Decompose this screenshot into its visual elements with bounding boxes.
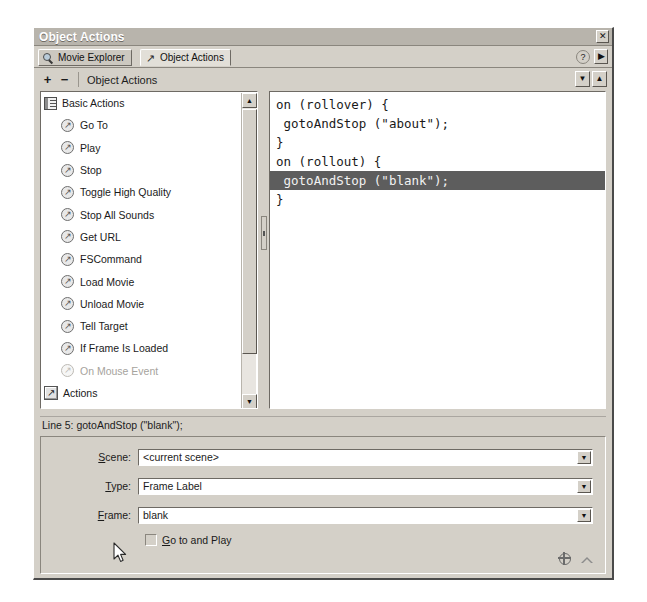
magnifier-icon xyxy=(42,52,55,64)
action-circle-icon: ↗ xyxy=(61,186,74,199)
close-icon[interactable]: ✕ xyxy=(596,30,609,43)
code-line[interactable]: on (rollover) { xyxy=(270,95,605,114)
action-arrow-icon: ↗ xyxy=(144,52,157,64)
code-line[interactable]: } xyxy=(270,190,605,209)
action-circle-icon: ↗ xyxy=(61,320,74,333)
action-circle-icon: ↗ xyxy=(61,253,74,266)
action-circle-icon: ↗ xyxy=(61,364,74,377)
scene-combobox[interactable]: <current scene>▼ xyxy=(138,449,593,466)
scene-label: Scene: xyxy=(41,451,138,463)
tab-movie-explorer[interactable]: Movie Explorer xyxy=(38,49,132,66)
code-line-selected[interactable]: gotoAndStop ("blank"); xyxy=(270,171,605,190)
tree-item-basic-actions[interactable]: Basic Actions xyxy=(41,92,257,114)
action-square-icon: ↗ xyxy=(44,386,58,400)
scroll-up-icon[interactable]: ▲ xyxy=(242,93,257,108)
book-icon xyxy=(44,97,57,110)
action-circle-icon: ↗ xyxy=(61,164,74,177)
window-title: Object Actions xyxy=(34,30,125,44)
action-circle-icon: ↗ xyxy=(61,342,74,355)
actions-toolbox-list: Basic Actions↗Go To↗Play↗Stop↗Toggle Hig… xyxy=(41,92,257,409)
tree-item-label: Tell Target xyxy=(74,320,128,332)
move-up-icon[interactable]: ▲ xyxy=(592,71,607,87)
window-titlebar[interactable]: Object Actions ✕ xyxy=(34,28,612,46)
code-line[interactable]: gotoAndStop ("about"); xyxy=(270,114,605,133)
goto-and-play-text: o to and Play xyxy=(170,534,231,546)
actionscript-lines: on (rollover) { gotoAndStop ("about");}o… xyxy=(270,95,605,209)
type-label: Type: xyxy=(41,480,138,492)
tree-item-operators[interactable]: ↗Operators xyxy=(41,404,257,409)
actionscript-editor[interactable]: on (rollover) { gotoAndStop ("about");}o… xyxy=(269,91,606,409)
tree-item-if-frame-is-loaded[interactable]: ↗If Frame Is Loaded xyxy=(41,337,257,359)
tree-item-label: Go To xyxy=(74,119,108,131)
remove-action-button[interactable]: − xyxy=(56,71,73,88)
action-square-icon: ↗ xyxy=(44,408,58,409)
add-action-button[interactable]: + xyxy=(39,71,56,88)
tree-item-play[interactable]: ↗Play xyxy=(41,137,257,159)
goto-and-play-label: Go to and Play xyxy=(157,534,231,546)
action-circle-icon: ↗ xyxy=(61,119,74,132)
tab-movie-explorer-label: Movie Explorer xyxy=(58,52,125,63)
tree-item-label: Toggle High Quality xyxy=(74,186,171,198)
goto-and-play-mnemonic: G xyxy=(162,534,170,546)
tree-item-label: Get URL xyxy=(74,231,121,243)
tree-item-unload-movie[interactable]: ↗Unload Movie xyxy=(41,293,257,315)
tree-item-load-movie[interactable]: ↗Load Movie xyxy=(41,270,257,292)
tree-item-tell-target[interactable]: ↗Tell Target xyxy=(41,315,257,337)
action-circle-icon: ↗ xyxy=(61,141,74,154)
scene-field-row: Scene:<current scene>▼ xyxy=(41,449,605,465)
action-circle-icon: ↗ xyxy=(61,275,74,288)
tree-item-stop-all-sounds[interactable]: ↗Stop All Sounds xyxy=(41,203,257,225)
action-circle-icon: ↗ xyxy=(61,208,74,221)
type-value: Frame Label xyxy=(139,480,202,492)
tree-item-stop[interactable]: ↗Stop xyxy=(41,159,257,181)
frame-label: Frame: xyxy=(41,509,138,521)
object-actions-window: Object Actions ✕ Movie Explorer ↗ Object… xyxy=(33,27,614,580)
type-field-row: Type:Frame Label▼ xyxy=(41,478,605,494)
tree-item-get-url[interactable]: ↗Get URL xyxy=(41,226,257,248)
actions-toolbar: + − Object Actions ▼ ▲ xyxy=(34,68,612,91)
tree-item-label: Actions xyxy=(58,387,97,399)
chevron-down-icon[interactable]: ▼ xyxy=(577,480,591,493)
code-line[interactable]: } xyxy=(270,133,605,152)
move-down-icon[interactable]: ▼ xyxy=(575,71,590,87)
actions-workarea: Basic Actions↗Go To↗Play↗Stop↗Toggle Hig… xyxy=(40,91,606,411)
chevron-down-icon[interactable]: ▼ xyxy=(577,451,591,464)
tree-item-label: Play xyxy=(74,142,100,154)
type-label-text: ype: xyxy=(111,480,131,492)
panel-splitter-handle[interactable] xyxy=(261,216,267,250)
tab-object-actions[interactable]: ↗ Object Actions xyxy=(140,49,231,66)
tree-item-go-to[interactable]: ↗Go To xyxy=(41,114,257,136)
toolbox-scrollbar[interactable]: ▲ ▼ xyxy=(241,93,256,409)
frame-label-text: rame: xyxy=(104,509,131,521)
tab-object-actions-label: Object Actions xyxy=(160,52,224,63)
tree-item-label: Stop All Sounds xyxy=(74,209,154,221)
tree-item-label: FSCommand xyxy=(74,253,142,265)
tree-item-label: Stop xyxy=(74,164,102,176)
parameter-fields: Scene:<current scene>▼Type:Frame Label▼F… xyxy=(41,449,605,523)
panel-tabstrip: Movie Explorer ↗ Object Actions ? ▶ xyxy=(34,46,612,68)
tree-item-toggle-high-quality[interactable]: ↗Toggle High Quality xyxy=(41,181,257,203)
scroll-down-icon[interactable]: ▼ xyxy=(242,394,257,409)
frame-combobox[interactable]: blank▼ xyxy=(138,507,593,524)
help-icon[interactable]: ? xyxy=(576,50,590,64)
status-line: Line 5: gotoAndStop ("blank"); xyxy=(40,416,606,433)
tree-item-label: On Mouse Event xyxy=(74,365,158,377)
tree-item-fscommand[interactable]: ↗FSCommand xyxy=(41,248,257,270)
goto-and-play-row[interactable]: Go to and Play xyxy=(41,534,605,546)
tree-item-label: If Frame Is Loaded xyxy=(74,342,168,354)
goto-and-play-checkbox[interactable] xyxy=(145,534,157,546)
actions-toolbox-tree[interactable]: Basic Actions↗Go To↗Play↗Stop↗Toggle Hig… xyxy=(40,91,258,409)
target-path-icon[interactable] xyxy=(559,553,571,565)
tree-item-on-mouse-event[interactable]: ↗On Mouse Event xyxy=(41,360,257,382)
chevron-down-icon[interactable]: ▼ xyxy=(577,509,591,522)
scrollbar-thumb[interactable] xyxy=(242,109,257,354)
expand-collapse-icon[interactable] xyxy=(581,557,593,564)
type-combobox[interactable]: Frame Label▼ xyxy=(138,478,593,495)
panel-menu-arrow-icon[interactable]: ▶ xyxy=(594,49,608,64)
tree-item-label: Load Movie xyxy=(74,276,134,288)
tree-item-actions[interactable]: ↗Actions xyxy=(41,382,257,404)
toolbar-divider xyxy=(78,72,79,87)
code-line[interactable]: on (rollout) { xyxy=(270,152,605,171)
action-circle-icon: ↗ xyxy=(61,297,74,310)
scene-label-text: cene: xyxy=(105,451,131,463)
